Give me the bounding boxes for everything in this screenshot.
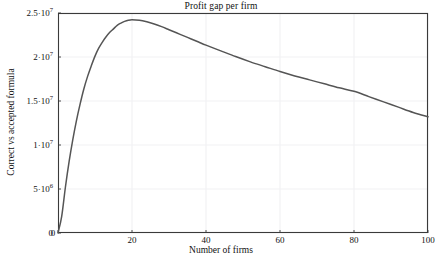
x-tick-label: 20: [128, 235, 137, 245]
x-tick-label: 80: [350, 235, 359, 245]
chart-figure: Profit gap per firm Correct vs accepted …: [0, 0, 442, 259]
x-tick-label: 60: [276, 235, 285, 245]
x-tick-label: 100: [421, 235, 435, 245]
x-tick-label: 0: [51, 228, 56, 238]
x-tick-label: 40: [202, 235, 211, 245]
x-axis-tick-labels: 020406080100: [0, 0, 442, 259]
